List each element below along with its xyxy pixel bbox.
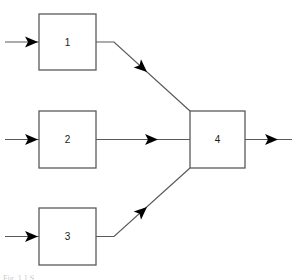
block-diagram: 1 2 3 4 <box>0 0 301 280</box>
block-2[interactable]: 2 <box>39 111 96 168</box>
connector-block3-to-block4 <box>96 168 190 237</box>
block-4[interactable]: 4 <box>190 111 245 168</box>
block-2-label: 2 <box>65 134 71 145</box>
block-3[interactable]: 3 <box>39 208 96 265</box>
figure-canvas: 1 2 3 4 Fig. 1.1 S <box>0 0 301 280</box>
figure-caption: Fig. 1.1 S <box>3 274 34 280</box>
block-1[interactable]: 1 <box>39 14 96 70</box>
block-1-label: 1 <box>65 37 71 48</box>
block-3-label: 3 <box>65 231 71 242</box>
block-4-label: 4 <box>215 134 221 145</box>
connector-block1-to-block4 <box>96 42 190 111</box>
